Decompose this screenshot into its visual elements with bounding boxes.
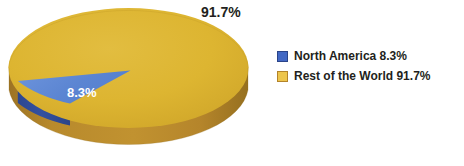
legend-item-north-america[interactable]: North America 8.3% (277, 49, 430, 64)
data-label-rest-of-world: 91.7% (201, 4, 241, 20)
chart-plot-area: 91.7% 8.3% (0, 0, 270, 166)
data-label-north-america: 8.3% (67, 85, 97, 100)
pie-3d-graphic (0, 0, 270, 166)
legend-label-rest-of-world: Rest of the World 91.7% (294, 70, 430, 83)
pie-chart-figure: 91.7% 8.3% North America 8.3% Rest of th… (0, 0, 464, 166)
legend-swatch-north-america (277, 51, 288, 62)
legend-swatch-rest-of-world (277, 71, 288, 82)
chart-legend: North America 8.3% Rest of the World 91.… (277, 49, 430, 84)
legend-label-north-america: North America 8.3% (294, 50, 407, 63)
slice-rest-of-world-top (9, 8, 249, 128)
legend-item-rest-of-world[interactable]: Rest of the World 91.7% (277, 69, 430, 84)
pie-top-surface (9, 8, 249, 128)
